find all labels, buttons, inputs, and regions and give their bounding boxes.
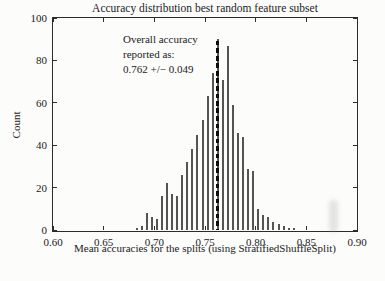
- y-tick-label: 60: [0, 97, 47, 109]
- histogram-bar: [237, 133, 239, 231]
- mean-accuracy-dashed-line: [216, 41, 219, 230]
- histogram-bar: [262, 215, 264, 230]
- histogram-bar: [181, 175, 183, 230]
- x-tick-top: [205, 18, 206, 22]
- x-axis-label: Mean accuracies for the splits (using St…: [32, 242, 378, 254]
- y-tick-right: [353, 230, 357, 231]
- y-tick-left: [53, 145, 57, 146]
- x-tick-bottom: [154, 226, 155, 230]
- histogram-bar: [171, 194, 173, 230]
- histogram-bar: [136, 228, 138, 230]
- x-tick-bottom: [103, 226, 104, 230]
- x-tick-bottom: [205, 226, 206, 230]
- x-tick-top: [255, 18, 256, 22]
- histogram-bar: [252, 171, 254, 230]
- plot-area: Overall accuracy reported as: 0.762 +/− …: [52, 17, 358, 232]
- annotation-line-3: 0.762 +/− 0.049: [123, 62, 198, 77]
- annotation-line-2: reported as:: [123, 47, 198, 62]
- y-tick-left: [53, 60, 57, 61]
- y-tick-label: 40: [0, 139, 47, 151]
- histogram-bar: [151, 217, 153, 230]
- y-tick-left: [53, 187, 57, 188]
- x-tick-top: [357, 18, 358, 22]
- y-tick-label: 20: [0, 182, 47, 194]
- y-tick-left: [53, 230, 57, 231]
- y-tick-right: [353, 60, 357, 61]
- histogram-bar: [191, 149, 193, 230]
- y-tick-right: [353, 18, 357, 19]
- x-tick-top: [53, 18, 54, 22]
- histogram-bar: [166, 183, 168, 230]
- histogram-bar: [293, 228, 295, 230]
- histogram-bar: [207, 96, 209, 230]
- y-tick-label: 0: [0, 224, 47, 236]
- y-tick-left: [53, 18, 57, 19]
- y-tick-right: [353, 187, 357, 188]
- histogram-bar: [212, 73, 214, 230]
- x-tick-bottom: [255, 226, 256, 230]
- y-tick-left: [53, 102, 57, 103]
- histogram-bar: [267, 217, 269, 230]
- histogram-bar: [202, 120, 204, 230]
- chart-title: Accuracy distribution best random featur…: [52, 2, 358, 14]
- x-tick-top: [154, 18, 155, 22]
- histogram-bar: [272, 222, 274, 231]
- histogram-bar: [161, 196, 163, 230]
- histogram-bar: [227, 46, 229, 230]
- histogram-bar: [196, 135, 198, 230]
- histogram-bar: [146, 213, 148, 230]
- histogram-figure: Accuracy distribution best random featur…: [0, 0, 385, 281]
- y-tick-label: 80: [0, 54, 47, 66]
- scan-artifact-smudge: [329, 200, 338, 232]
- y-tick-right: [353, 145, 357, 146]
- y-tick-label: 100: [0, 12, 47, 24]
- histogram-bar: [232, 105, 234, 230]
- histogram-bar: [278, 224, 280, 230]
- y-tick-right: [353, 102, 357, 103]
- x-tick-top: [306, 18, 307, 22]
- histogram-bar: [186, 162, 188, 230]
- x-tick-bottom: [306, 226, 307, 230]
- histogram-bar: [247, 169, 249, 231]
- histogram-bar: [176, 196, 178, 230]
- histogram-bar: [288, 228, 290, 230]
- histogram-bar: [242, 137, 244, 230]
- histogram-bar: [257, 209, 259, 230]
- histogram-bar: [283, 226, 285, 230]
- histogram-bar: [222, 80, 224, 231]
- histogram-bar: [141, 226, 143, 230]
- annotation-line-1: Overall accuracy: [123, 32, 198, 47]
- annotation-text: Overall accuracy reported as: 0.762 +/− …: [123, 32, 198, 77]
- x-tick-top: [103, 18, 104, 22]
- histogram-bar: [156, 219, 158, 230]
- y-axis-label: Count: [10, 112, 22, 139]
